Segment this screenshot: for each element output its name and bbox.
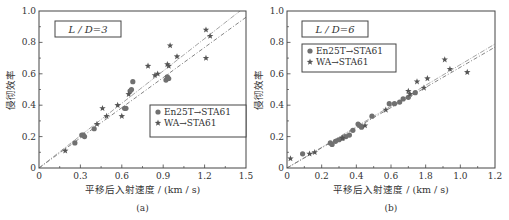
x-tick-label: 0 xyxy=(284,171,290,181)
x-tick-label: 1.8 xyxy=(419,171,434,181)
y-axis-label: 侵彻效率 xyxy=(5,70,16,110)
fit-line xyxy=(39,17,246,168)
annotation-text: L / D=6 xyxy=(314,24,355,35)
data-point-star xyxy=(119,113,125,119)
y-tick-label: 0.2 xyxy=(22,132,36,142)
y-tick-label: 0.4 xyxy=(270,100,285,110)
data-point-star xyxy=(62,147,68,153)
data-point-circle xyxy=(123,106,128,111)
data-point-circle xyxy=(369,114,374,119)
panel-caption: (b) xyxy=(385,203,398,213)
x-tick-label: 0.4 xyxy=(349,171,364,181)
data-point-circle xyxy=(392,101,397,106)
y-tick-label: 0 xyxy=(30,163,36,173)
data-point-star xyxy=(99,105,105,111)
x-tick-label: 1.2 xyxy=(197,171,211,181)
x-axis-label: 平移后入射速度 / (km / s) xyxy=(85,184,201,195)
legend-label: En25T→STA61 xyxy=(164,107,231,117)
legend-label: WA→STA61 xyxy=(164,118,216,128)
data-point-circle xyxy=(401,96,406,101)
data-point-star xyxy=(414,78,420,84)
y-axis-label: 侵彻效率 xyxy=(253,70,264,110)
data-point-star xyxy=(464,69,470,75)
x-tick-label: 0.3 xyxy=(73,171,88,181)
y-tick-label: 1.0 xyxy=(270,6,285,16)
y-tick-label: 1.0 xyxy=(22,6,37,16)
y-tick-label: 0.8 xyxy=(270,37,285,47)
chart-panel-a: 00.30.60.91.21.500.20.40.60.81.0平移后入射速度 … xyxy=(5,6,253,213)
data-point-star xyxy=(287,155,293,161)
chart-panel-b: 00.20.40.61.81.01.200.20.40.60.81.0平移后入射… xyxy=(253,6,502,213)
legend-label: WA→STA61 xyxy=(316,57,368,67)
data-point-star xyxy=(145,63,151,69)
annotation-text: L / D=3 xyxy=(67,24,107,35)
data-point-star xyxy=(203,55,209,61)
x-axis-label: 平移后入射速度 / (km / s) xyxy=(333,184,449,195)
data-point-circle xyxy=(130,79,135,84)
y-tick-label: 0.6 xyxy=(270,69,285,79)
data-point-circle xyxy=(82,134,87,139)
x-tick-label: 0.9 xyxy=(156,171,171,181)
data-point-star xyxy=(207,33,213,39)
y-tick-label: 0.8 xyxy=(22,37,37,47)
x-tick-label: 0.6 xyxy=(115,171,130,181)
legend: En25T→STA61WA→STA61 xyxy=(302,44,396,72)
panel-caption: (a) xyxy=(136,203,148,213)
x-tick-label: 1.5 xyxy=(239,171,254,181)
data-point-circle xyxy=(413,90,418,95)
data-point-circle xyxy=(129,87,134,92)
data-point-circle xyxy=(300,151,305,156)
y-tick-label: 0.6 xyxy=(22,69,37,79)
data-point-circle xyxy=(387,101,392,106)
figure: 00.30.60.91.21.500.20.40.60.81.0平移后入射速度 … xyxy=(0,0,509,220)
legend-circle-icon xyxy=(307,48,312,53)
data-point-circle xyxy=(166,76,171,81)
legend-circle-icon xyxy=(155,109,160,114)
data-point-star xyxy=(203,26,209,32)
x-tick-label: 0.2 xyxy=(315,171,329,181)
data-point-star xyxy=(442,56,448,62)
y-tick-label: 0 xyxy=(278,163,284,173)
legend-label: En25T→STA61 xyxy=(316,46,383,56)
data-point-star xyxy=(424,75,430,81)
data-point-circle xyxy=(72,140,77,145)
legend: En25T→STA61WA→STA61 xyxy=(150,105,246,137)
data-point-star xyxy=(312,149,318,155)
y-tick-label: 0.4 xyxy=(22,100,37,110)
data-point-star xyxy=(94,121,100,127)
data-point-circle xyxy=(350,128,355,133)
x-tick-label: 1.0 xyxy=(453,171,468,181)
x-tick-label: 0.6 xyxy=(384,171,399,181)
data-point-star xyxy=(167,42,173,48)
data-point-circle xyxy=(347,132,352,137)
x-tick-label: 0 xyxy=(36,171,42,181)
x-tick-label: 1.2 xyxy=(488,171,502,181)
y-tick-label: 0.2 xyxy=(270,132,284,142)
data-point-circle xyxy=(92,126,97,131)
